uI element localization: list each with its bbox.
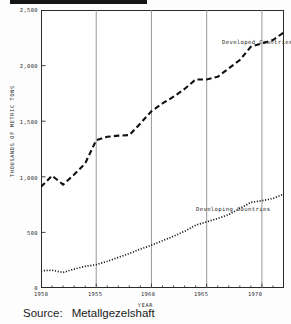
x-tick-label: 1955 [88,291,102,297]
plot-area: Developed Countries Developing Countries [41,10,284,288]
x-tick-label: 1950 [34,291,48,297]
chart-figure: 2,500 2,000 1,500 1,000 500 0 THOUSANDS … [0,0,291,324]
series-annotation-developed-countries: Developed Countries [222,39,291,45]
y-tick-label: 2,000 [4,63,38,69]
x-tick-label: 1960 [141,291,155,297]
y-axis-title: THOUSANDS OF METRIC TONS [9,71,15,191]
source-value: Metallgezelshaft [72,307,155,319]
source-label: Source: [23,307,63,319]
x-tick-label: 1970 [248,291,262,297]
chart-canvas [41,10,284,288]
x-axis-tick-labels: 1950 1955 1960 1965 1970 [0,291,291,301]
y-tick-label: 2,500 [4,7,38,13]
x-tick-label: 1965 [194,291,208,297]
y-axis-tick-labels: 2,500 2,000 1,500 1,000 500 0 [0,0,38,324]
series-annotation-developing-countries: Developing Countries [196,206,270,212]
y-tick-label: 500 [4,230,38,236]
plot-frame [42,11,284,288]
source-caption: Source:Metallgezelshaft [23,307,155,319]
